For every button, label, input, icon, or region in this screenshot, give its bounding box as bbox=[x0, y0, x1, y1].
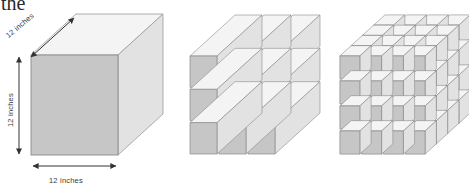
figure-cube-sliced-unit-cubes bbox=[0, 0, 469, 191]
illustration-canvas: the 12 inches 12 inches 12 inches bbox=[0, 0, 469, 191]
unit-cube-0-3-0-front bbox=[340, 131, 360, 154]
